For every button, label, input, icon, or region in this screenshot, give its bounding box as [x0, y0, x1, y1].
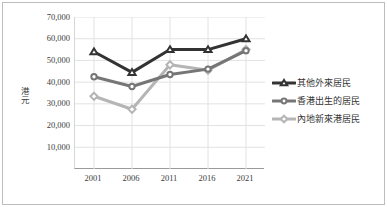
data-point-marker [166, 46, 173, 52]
data-point-marker [243, 48, 248, 53]
legend-item-label: 其他外來居民 [296, 78, 351, 89]
data-point-marker [90, 93, 97, 100]
x-axis-tick-labels: 20012006201120162021 [74, 173, 264, 187]
data-point-marker [129, 84, 134, 89]
y-axis-tick-label: 40,000 [26, 78, 70, 87]
data-point-marker [205, 66, 210, 71]
data-point-marker [204, 46, 211, 52]
legend-item-label: 內地新來港居民 [296, 114, 360, 125]
legend-item-label: 香港出生的居民 [296, 96, 360, 107]
y-axis-tick-label: 70,000 [26, 13, 70, 22]
legend-item[interactable]: 其他外來居民 [272, 74, 384, 92]
y-axis-tick-label: 50,000 [26, 56, 70, 65]
data-point-marker [91, 74, 96, 79]
x-axis-tick-label: 2021 [225, 173, 265, 183]
legend-item[interactable]: 內地新來港居民 [272, 110, 384, 128]
y-axis-tick-labels: 70,00060,00050,00040,00030,00020,00010,0… [26, 0, 70, 207]
x-axis-tick-label: 2006 [111, 173, 151, 183]
y-axis-tick-label: 30,000 [26, 99, 70, 108]
legend-marker-icon [272, 94, 296, 108]
data-point-marker [242, 35, 249, 41]
x-axis-tick-label: 2011 [149, 173, 189, 183]
chart-legend: 其他外來居民香港出生的居民內地新來港居民 [272, 74, 384, 128]
plot-svg [75, 17, 265, 169]
data-point-marker [90, 48, 97, 54]
legend-marker-icon [272, 76, 296, 90]
legend-marker-icon [272, 112, 296, 126]
legend-item[interactable]: 香港出生的居民 [272, 92, 384, 110]
data-point-marker [167, 72, 172, 77]
x-axis-tick-label: 2016 [187, 173, 227, 183]
y-axis-tick-label: 60,000 [26, 34, 70, 43]
y-axis-tick-label: 10,000 [26, 143, 70, 152]
plot-area [74, 17, 264, 169]
line-chart: 港元 70,00060,00050,00040,00030,00020,0001… [0, 0, 387, 207]
y-axis-tick-label: 20,000 [26, 121, 70, 130]
x-axis-tick-label: 2001 [73, 173, 113, 183]
grid-lines [75, 17, 265, 169]
